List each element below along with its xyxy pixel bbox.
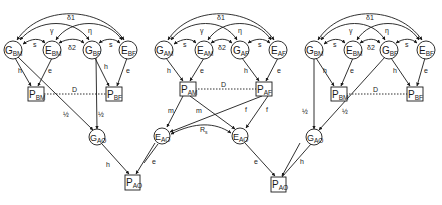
node-p-af: PAF [256, 82, 272, 96]
delta2-label: δ2 [367, 44, 375, 51]
delta2-label: δ2 [68, 44, 76, 51]
node-e-am: EAM [195, 41, 213, 59]
h-label: h [104, 63, 108, 70]
h-label: h [167, 67, 171, 74]
node-g-bm: GBM [305, 41, 324, 59]
node-g-bf: GBF [83, 41, 101, 59]
delta1-label: δ1 [217, 14, 225, 21]
e-label: e [350, 67, 354, 74]
h-label: h [244, 67, 248, 74]
node-e-ao-left: EAO [154, 128, 170, 144]
h-label: h [393, 67, 397, 74]
node-p-bm: PBM [28, 87, 45, 101]
node-e-bm: EBM [344, 41, 362, 59]
s-right-label: s [109, 41, 113, 48]
half-label: ½ [98, 111, 104, 118]
node-p-ao: PAO [271, 177, 288, 192]
gamma-label: γ [50, 27, 54, 35]
rs-label: Rs [200, 126, 208, 135]
d-label: D [373, 86, 378, 93]
delta2-label: δ2 [218, 44, 226, 51]
node-p-bm: PBM [331, 87, 348, 101]
half-label: ½ [302, 108, 308, 115]
h-label: h [106, 161, 110, 168]
gamma-label: γ [349, 27, 353, 35]
m-label: m [168, 107, 174, 114]
eta-label: η [238, 27, 242, 35]
delta1-label: δ1 [67, 14, 75, 21]
d-label: D [221, 81, 226, 88]
eta-label: η [88, 27, 92, 35]
h-label: h [323, 67, 327, 74]
e-label: e [126, 67, 130, 74]
half-label: ½ [342, 108, 348, 115]
e-label: e [48, 67, 52, 74]
panel-middle: δ1 γ η s δ2 s h e h e D m m f f Rs e e G… [144, 14, 300, 192]
panel-left: δ1 γ η s δ2 s h e h e D ½ ½ h GBM EBM GB… [4, 14, 155, 190]
gamma-label: γ [200, 27, 204, 35]
d-label: D [72, 86, 77, 93]
e-label: e [277, 67, 281, 74]
node-g-am: GAM [155, 41, 174, 59]
panel-right: δ1 γ η s δ2 s h e h e D ½ ½ h GBM EBM GB… [282, 14, 435, 177]
s-left-label: s [183, 41, 187, 48]
node-e-bf: EBF [119, 41, 137, 59]
node-g-af: GAF [231, 41, 249, 59]
node-p-bf: PBF [106, 87, 122, 101]
delta2-curve [59, 39, 84, 43]
s-right-label: s [258, 41, 262, 48]
f-label: f [245, 106, 247, 113]
node-e-bf: EBF [417, 41, 435, 59]
e-label: e [152, 158, 156, 165]
s-left-label: s [33, 41, 37, 48]
half-label: ½ [63, 111, 69, 118]
node-g-ao: GAO [89, 129, 106, 145]
node-g-bm: GBM [4, 41, 23, 59]
s-left-label: s [333, 41, 337, 48]
node-p-ao: PAO [125, 175, 142, 190]
node-p-bf: PBF [407, 87, 423, 101]
node-g-bf: GBF [380, 41, 398, 59]
f-label: f [266, 106, 268, 113]
node-p-am: PAM [180, 82, 197, 96]
path-diagram: δ1 γ η s δ2 s h e h e D ½ ½ h GBM EBM GB… [0, 0, 442, 205]
m-label: m [196, 107, 202, 114]
e-label: e [254, 158, 258, 165]
node-g-ao: GAO [306, 129, 323, 145]
node-e-af: EAF [269, 41, 287, 59]
e-label: e [424, 67, 428, 74]
delta1-label: δ1 [366, 14, 374, 21]
node-e-ao-right: EAO [232, 128, 248, 144]
node-e-bm: EBM [43, 41, 61, 59]
h-label: h [300, 158, 304, 165]
eta-label: η [385, 27, 389, 35]
e-label: e [200, 67, 204, 74]
h-label: h [18, 67, 22, 74]
s-right-label: s [405, 41, 409, 48]
